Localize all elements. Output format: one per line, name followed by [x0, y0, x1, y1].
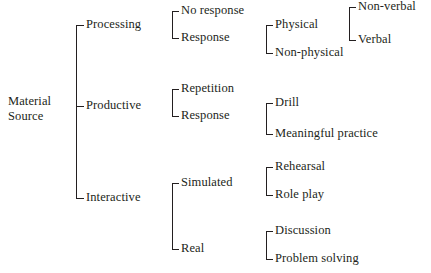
tree-node-verbal: Verbal — [358, 33, 391, 47]
tree-node-interactive: Interactive — [86, 191, 141, 205]
tree-node-non-physical: Non-physical — [275, 46, 344, 60]
root-label-line2: Source — [8, 109, 51, 124]
bracket-stub-rehearsal — [266, 167, 273, 168]
bracket-stub-interactive — [76, 198, 84, 199]
tree-node-non-verbal: Non-verbal — [358, 0, 416, 14]
bracket-stub-processing — [76, 25, 84, 26]
bracket-spine — [76, 25, 77, 199]
tree-node-physical: Physical — [275, 18, 318, 32]
tree-node-processing: Processing — [86, 18, 141, 32]
bracket-spine — [266, 103, 267, 135]
bracket-stub-physical — [266, 25, 273, 26]
tree-node-discussion: Discussion — [275, 224, 331, 238]
tree-node-drill: Drill — [275, 96, 299, 110]
tree-node-processing-response: Response — [181, 31, 230, 45]
bracket-stub-meaningful-practice — [266, 134, 273, 135]
bracket-stub-response — [172, 38, 179, 39]
bracket-stub-role-play — [266, 195, 273, 196]
bracket-spine — [266, 25, 267, 54]
bracket-spine — [266, 167, 267, 196]
tree-node-problem-solving: Problem solving — [275, 252, 359, 266]
bracket-stub-simulated — [172, 183, 179, 184]
bracket-stub-problem-solving — [266, 259, 273, 260]
tree-node-productive-response: Response — [181, 109, 230, 123]
bracket-stub-discussion — [266, 231, 273, 232]
bracket-stub-verbal — [349, 40, 356, 41]
bracket-stub-no-response — [172, 11, 179, 12]
bracket-stub-drill — [266, 103, 273, 104]
tree-node-root: Material Source — [8, 94, 51, 124]
classification-tree-diagram: Material Source Processing Productive In… — [0, 0, 431, 273]
bracket-stub-repetition — [172, 89, 179, 90]
tree-node-no-response: No response — [181, 4, 244, 18]
bracket-spine — [172, 89, 173, 117]
root-label-line1: Material — [8, 94, 51, 109]
bracket-spine — [172, 183, 173, 250]
bracket-spine — [172, 11, 173, 39]
bracket-stub-non-physical — [266, 53, 273, 54]
bracket-spine — [349, 7, 350, 41]
tree-node-repetition: Repetition — [181, 82, 234, 96]
bracket-stub-non-verbal — [349, 7, 356, 8]
bracket-stub-productive — [76, 106, 84, 107]
tree-node-rehearsal: Rehearsal — [275, 160, 325, 174]
tree-node-role-play: Role play — [275, 188, 324, 202]
bracket-stub-productive-response — [172, 116, 179, 117]
bracket-stub-real — [172, 249, 179, 250]
tree-node-productive: Productive — [86, 99, 141, 113]
tree-node-real: Real — [181, 242, 204, 256]
bracket-spine — [266, 231, 267, 260]
tree-node-simulated: Simulated — [181, 176, 233, 190]
tree-node-meaningful-practice: Meaningful practice — [275, 127, 378, 141]
